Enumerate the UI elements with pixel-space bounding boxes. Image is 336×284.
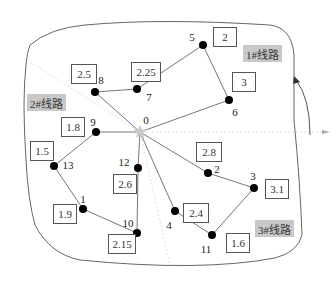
- customer-node-6: [225, 96, 233, 104]
- route-edge: [138, 132, 140, 168]
- customer-node-11: [208, 231, 216, 239]
- route-edge: [54, 132, 96, 166]
- route-edge: [95, 89, 137, 92]
- node-label-6: 6: [232, 107, 238, 118]
- route-tag-2: 2#线路: [27, 94, 66, 111]
- node-label-5: 5: [189, 32, 195, 43]
- node-label-11: 11: [201, 244, 212, 255]
- depot-label: 0: [143, 115, 149, 126]
- node-label-3: 3: [250, 171, 256, 182]
- node-label-7: 7: [146, 92, 152, 103]
- route-edge: [95, 92, 140, 132]
- customer-node-9: [92, 128, 100, 136]
- demand-box-10: 2.15: [108, 234, 136, 254]
- node-label-1: 1: [80, 194, 86, 205]
- demand-box-11: 1.6: [226, 233, 250, 253]
- demand-box-7: 2.25: [131, 62, 161, 82]
- route-edge: [54, 166, 83, 209]
- route-edge: [140, 132, 175, 211]
- customer-node-4: [171, 207, 179, 215]
- customer-node-1: [79, 205, 87, 213]
- customer-node-2: [204, 169, 212, 177]
- customer-node-7: [133, 85, 141, 93]
- demand-box-8: 2.5: [71, 64, 97, 84]
- customer-node-12: [134, 164, 142, 172]
- route-tag-3: 3#线路: [255, 220, 294, 237]
- demand-box-13: 1.5: [30, 141, 54, 161]
- route-edge: [203, 45, 229, 100]
- demand-box-9: 1.8: [61, 117, 85, 137]
- node-label-8: 8: [98, 75, 104, 86]
- node-label-4: 4: [166, 220, 172, 231]
- route-edge: [137, 168, 138, 233]
- route-edge: [212, 188, 254, 235]
- customer-node-13: [50, 162, 58, 170]
- node-label-9: 9: [90, 117, 96, 128]
- node-label-10: 10: [123, 218, 134, 229]
- node-label-13: 13: [63, 160, 74, 171]
- customer-node-5: [199, 41, 207, 49]
- customer-node-8: [91, 88, 99, 96]
- demand-box-1: 1.9: [53, 204, 77, 224]
- route-tag-1: 1#线路: [243, 45, 282, 62]
- demand-box-5: 2: [213, 27, 237, 47]
- node-label-2: 2: [214, 164, 220, 175]
- route-edge: [208, 173, 254, 188]
- customer-node-3: [250, 184, 258, 192]
- node-label-12: 12: [119, 157, 130, 168]
- demand-box-4: 2.4: [183, 203, 209, 223]
- demand-box-12: 2.6: [113, 174, 137, 194]
- demand-box-6: 3: [232, 72, 256, 92]
- demand-box-3: 3.1: [265, 179, 289, 199]
- route-edge: [140, 100, 229, 132]
- rotation-arrow-icon: [293, 76, 330, 135]
- demand-box-2: 2.8: [196, 142, 222, 162]
